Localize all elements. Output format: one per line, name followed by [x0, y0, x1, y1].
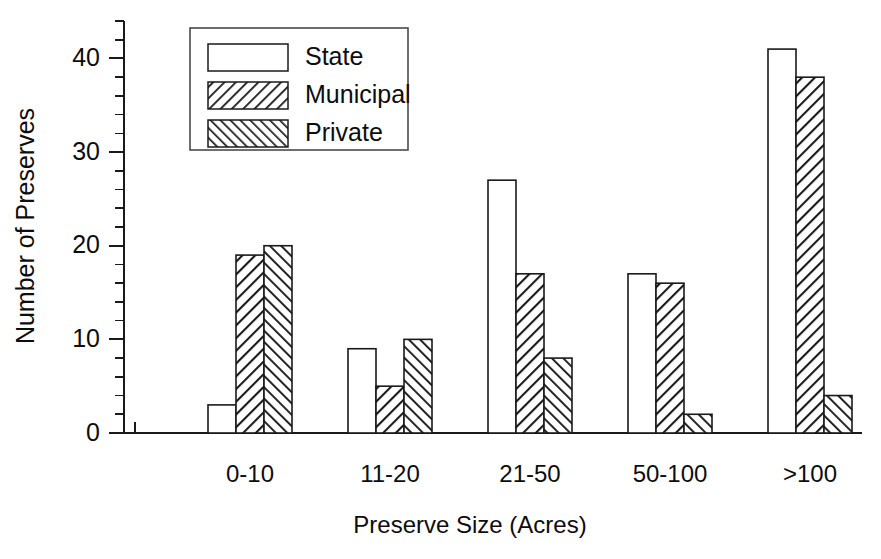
y-tick-label: 0	[86, 418, 100, 446]
legend-swatch	[208, 120, 288, 147]
legend: StateMunicipalPrivate	[190, 28, 411, 150]
legend-swatch	[208, 44, 288, 71]
bar	[236, 255, 264, 433]
y-tick-label: 20	[72, 230, 100, 258]
chart-background	[0, 0, 881, 559]
y-tick-label: 10	[72, 324, 100, 352]
chart-container: Number of Preserves 010203040 0-1011-202…	[0, 0, 881, 559]
bar	[264, 246, 292, 433]
bar	[824, 396, 852, 433]
bar-chart-figure: Number of Preserves 010203040 0-1011-202…	[0, 0, 881, 559]
bar	[488, 180, 516, 433]
x-tick-label: >100	[783, 460, 837, 487]
legend-label: Private	[305, 118, 383, 146]
bar	[404, 339, 432, 433]
bar	[208, 405, 236, 433]
legend-label: State	[305, 42, 363, 70]
bar	[768, 49, 796, 433]
x-tick-label: 0-10	[226, 460, 274, 487]
y-tick-label: 40	[72, 43, 100, 71]
x-axis-title: Preserve Size (Acres)	[353, 511, 586, 538]
bar	[348, 349, 376, 433]
bar	[656, 283, 684, 433]
bar	[516, 274, 544, 433]
y-axis-title: Number of Preserves	[11, 108, 39, 344]
bar	[628, 274, 656, 433]
x-tick-label: 21-50	[499, 460, 560, 487]
legend-label: Municipal	[305, 80, 411, 108]
bar	[544, 358, 572, 433]
y-tick-label: 30	[72, 137, 100, 165]
legend-swatch	[208, 82, 288, 109]
bar	[376, 386, 404, 433]
bar	[684, 414, 712, 433]
bar	[796, 77, 824, 433]
x-tick-label: 50-100	[633, 460, 708, 487]
x-tick-label: 11-20	[360, 460, 420, 487]
